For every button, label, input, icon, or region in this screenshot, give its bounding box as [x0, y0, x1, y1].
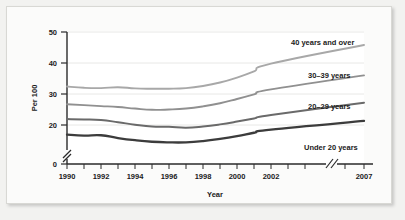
x-tick-label-2002: 2002 — [263, 172, 280, 181]
x-tick-label-1990: 1990 — [59, 172, 76, 181]
series-label-40-and-over: 40 years and over — [291, 38, 354, 47]
x-tick-label-1992: 1992 — [93, 172, 110, 181]
y-tick-label-40: 40 — [49, 59, 57, 68]
line-chart: 50 40 30 20 0 Per 100 — [7, 7, 391, 203]
figure-panel: 50 40 30 20 0 Per 100 — [6, 6, 392, 204]
x-tick-label-1998: 1998 — [195, 172, 212, 181]
y-tick-label-30: 30 — [49, 90, 57, 99]
y-axis-title: Per 100 — [30, 85, 39, 112]
x-axis-title: Year — [207, 190, 223, 199]
x-tick-label-2000: 2000 — [229, 172, 246, 181]
y-tick-label-20: 20 — [49, 121, 57, 130]
x-tick-label-1994: 1994 — [127, 172, 145, 181]
figure-container: 50 40 30 20 0 Per 100 — [0, 0, 405, 220]
series-label-30-39: 30–39 years — [308, 71, 351, 80]
series-label-under-20: Under 20 years — [304, 143, 358, 152]
x-tick-label-2007: 2007 — [356, 172, 373, 181]
x-tick-label-1996: 1996 — [161, 172, 178, 181]
y-tick-label-0: 0 — [53, 160, 57, 169]
series-label-20-29: 20–29 years — [308, 102, 351, 111]
y-tick-label-50: 50 — [49, 28, 57, 37]
